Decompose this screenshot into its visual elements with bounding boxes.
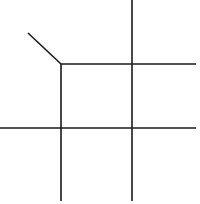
diagram-svg — [0, 0, 200, 204]
diagonal-stub-line — [28, 33, 61, 64]
line-diagram — [0, 0, 200, 204]
